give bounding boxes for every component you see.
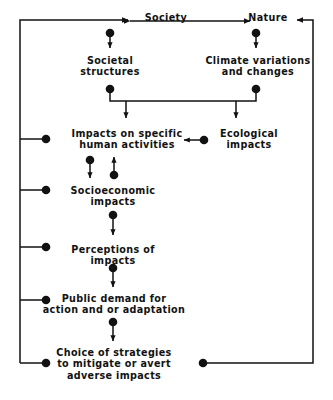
node-public-demand: Public demand for action and or adaptati… bbox=[29, 293, 199, 316]
society-to-societal-structures-arrow bbox=[106, 29, 115, 48]
merge-split-to-impacts-and-ecological bbox=[106, 85, 261, 118]
node-socioeconomic-impacts: Socioeconomic impacts bbox=[48, 185, 178, 208]
impacts-to-socioeconomic-arrow bbox=[86, 156, 95, 178]
demand-to-choice-arrow bbox=[109, 318, 118, 341]
node-societal-structures: Societal structures bbox=[55, 55, 165, 78]
right-bus-dot bbox=[199, 359, 208, 368]
node-perceptions-of-impacts: Perceptions of impacts bbox=[48, 244, 178, 267]
nature-to-climate-arrow bbox=[252, 29, 261, 48]
node-impacts-human-activities: Impacts on specific human activities bbox=[52, 128, 202, 151]
socioeconomic-to-perceptions-arrow bbox=[109, 211, 118, 235]
node-society: Society bbox=[121, 12, 211, 23]
perceptions-to-demand-arrow bbox=[109, 264, 118, 287]
socioeconomic-to-impacts-arrow bbox=[110, 157, 119, 179]
node-climate-variations: Climate variations and changes bbox=[188, 55, 328, 78]
node-nature: Nature bbox=[228, 12, 308, 23]
diagram-canvas: Society Nature Societal structures Clima… bbox=[0, 0, 333, 400]
node-ecological-impacts: Ecological impacts bbox=[204, 128, 294, 151]
node-choice-of-strategies: Choice of strategies to mitigate or aver… bbox=[29, 347, 199, 381]
